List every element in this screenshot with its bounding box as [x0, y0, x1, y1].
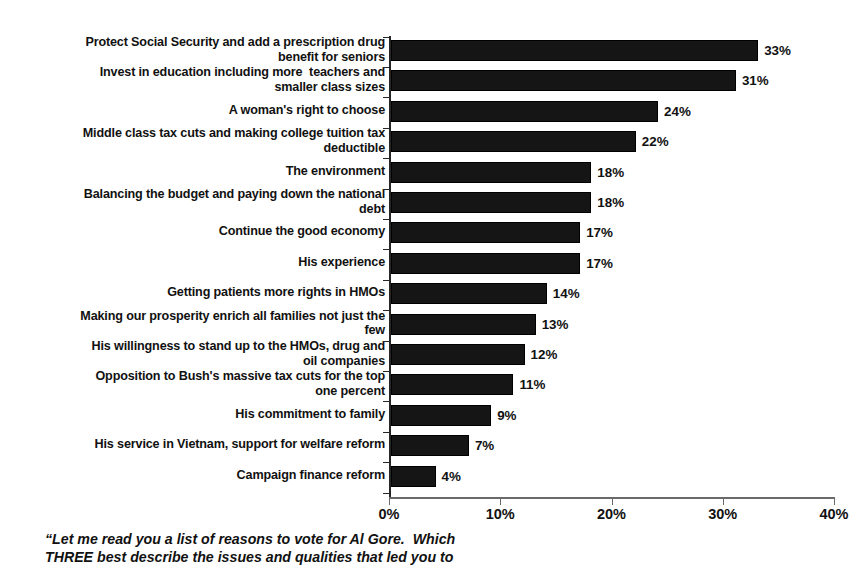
- bar-value-label: 12%: [531, 347, 558, 362]
- category-label-line: His commitment to family: [0, 407, 385, 422]
- bar-container: 13%: [391, 314, 536, 335]
- x-tick: [834, 497, 835, 505]
- bar: [391, 253, 580, 274]
- y-tick: [383, 401, 389, 402]
- bar-row: Making our prosperity enrich all familie…: [0, 310, 853, 340]
- y-tick: [383, 341, 389, 342]
- category-label: Middle class tax cuts and making college…: [0, 126, 385, 155]
- bar-row: Protect Social Security and add a prescr…: [0, 36, 853, 66]
- category-label: The environment: [0, 164, 385, 179]
- x-tick: [500, 497, 501, 505]
- bar-container: 9%: [391, 405, 491, 426]
- category-label: His commitment to family: [0, 407, 385, 422]
- bar-row: Getting patients more rights in HMOs14%: [0, 279, 853, 309]
- bar-row: Invest in education including more teach…: [0, 66, 853, 96]
- bar-container: 22%: [391, 131, 636, 152]
- category-label-line: one percent: [0, 384, 385, 399]
- bar-row: Middle class tax cuts and making college…: [0, 127, 853, 157]
- bar-row: His commitment to family9%: [0, 401, 853, 431]
- category-label-line: smaller class sizes: [0, 80, 385, 95]
- bar-container: 7%: [391, 435, 469, 456]
- y-tick: [383, 432, 389, 433]
- bar-value-label: 9%: [497, 408, 516, 423]
- bar: [391, 192, 591, 213]
- bar-row: Campaign finance reform4%: [0, 462, 853, 492]
- category-label-line: deductible: [0, 141, 385, 156]
- y-tick: [383, 189, 389, 190]
- x-tick-label: 40%: [794, 506, 853, 522]
- bar-row: His service in Vietnam, support for welf…: [0, 431, 853, 461]
- bar-value-label: 11%: [519, 377, 545, 392]
- category-label: Balancing the budget and paying down the…: [0, 187, 385, 216]
- bar-container: 18%: [391, 162, 591, 183]
- category-label-line: Campaign finance reform: [0, 468, 385, 483]
- bar: [391, 283, 547, 304]
- y-tick: [383, 219, 389, 220]
- bar-value-label: 31%: [742, 73, 769, 88]
- bar-row: Opposition to Bush's massive tax cuts fo…: [0, 370, 853, 400]
- y-tick: [383, 128, 389, 129]
- category-label: His service in Vietnam, support for welf…: [0, 437, 385, 452]
- category-label-line: Invest in education including more teach…: [0, 65, 385, 80]
- category-label: Opposition to Bush's massive tax cuts fo…: [0, 369, 385, 398]
- bar: [391, 405, 491, 426]
- y-tick: [383, 158, 389, 159]
- category-label-line: Middle class tax cuts and making college…: [0, 126, 385, 141]
- bar-row: A woman's right to choose24%: [0, 97, 853, 127]
- x-tick-label: 20%: [572, 506, 652, 522]
- bar: [391, 222, 580, 243]
- bar: [391, 314, 536, 335]
- bar: [391, 40, 758, 61]
- x-tick: [612, 497, 613, 505]
- bar-value-label: 22%: [642, 134, 669, 149]
- bar-container: 11%: [391, 374, 513, 395]
- y-tick: [383, 37, 389, 38]
- chart-caption: “Let me read you a list of reasons to vo…: [45, 530, 605, 567]
- bar-value-label: 18%: [597, 165, 624, 180]
- category-label-line: The environment: [0, 164, 385, 179]
- bar: [391, 466, 436, 487]
- bar-value-label: 17%: [586, 225, 613, 240]
- category-label: Continue the good economy: [0, 224, 385, 239]
- bar-row: His willingness to stand up to the HMOs,…: [0, 340, 853, 370]
- category-label-line: Opposition to Bush's massive tax cuts fo…: [0, 369, 385, 384]
- x-tick-label: 30%: [683, 506, 763, 522]
- y-tick: [383, 462, 389, 463]
- bar-row: His experience17%: [0, 249, 853, 279]
- x-tick: [389, 497, 390, 505]
- bar-container: 12%: [391, 344, 525, 365]
- bar-container: 17%: [391, 222, 580, 243]
- category-label: Invest in education including more teach…: [0, 65, 385, 94]
- bar: [391, 162, 591, 183]
- category-label: A woman's right to choose: [0, 103, 385, 118]
- category-label-line: oil companies: [0, 354, 385, 369]
- category-label-line: His experience: [0, 255, 385, 270]
- bar-row: Continue the good economy17%: [0, 218, 853, 248]
- category-label: Making our prosperity enrich all familie…: [0, 309, 385, 338]
- bar-container: 24%: [391, 101, 658, 122]
- category-label: His experience: [0, 255, 385, 270]
- category-label-line: Protect Social Security and add a prescr…: [0, 35, 385, 50]
- category-label: Getting patients more rights in HMOs: [0, 285, 385, 300]
- caption-line-2: THREE best describe the issues and quali…: [45, 548, 605, 566]
- x-tick: [723, 497, 724, 505]
- y-tick: [383, 280, 389, 281]
- bar: [391, 435, 469, 456]
- bar-container: 4%: [391, 466, 436, 487]
- x-tick-label: 0%: [349, 506, 429, 522]
- category-label-line: Continue the good economy: [0, 224, 385, 239]
- bar: [391, 374, 513, 395]
- bar-value-label: 14%: [553, 286, 580, 301]
- category-label-line: Making our prosperity enrich all familie…: [0, 309, 385, 324]
- category-label-line: His service in Vietnam, support for welf…: [0, 437, 385, 452]
- bar-row: Balancing the budget and paying down the…: [0, 188, 853, 218]
- bar: [391, 101, 658, 122]
- bar-container: 33%: [391, 40, 758, 61]
- y-tick: [383, 493, 389, 494]
- bar-container: 18%: [391, 192, 591, 213]
- category-label-line: Getting patients more rights in HMOs: [0, 285, 385, 300]
- category-label: His willingness to stand up to the HMOs,…: [0, 339, 385, 368]
- category-label: Campaign finance reform: [0, 468, 385, 483]
- bar-value-label: 4%: [442, 469, 461, 484]
- bar-value-label: 7%: [475, 438, 494, 453]
